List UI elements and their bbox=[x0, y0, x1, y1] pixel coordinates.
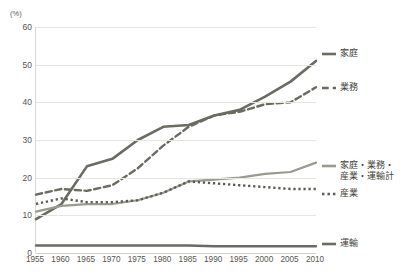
gridline bbox=[36, 102, 316, 103]
legend-swatch-icon bbox=[322, 163, 336, 173]
line-chart: (%) 0102030405060 1955196019651970197519… bbox=[0, 0, 420, 277]
legend-item[interactable]: 業務 bbox=[322, 82, 358, 95]
legend-label: 家庭 bbox=[340, 48, 358, 59]
legend-label: 家庭・業務・ 産業・運輸計 bbox=[340, 160, 394, 182]
y-tick-label: 20 bbox=[6, 174, 32, 183]
chart-legend: 家庭業務家庭・業務・ 産業・運輸計産業運輸 bbox=[322, 0, 420, 277]
gridline bbox=[36, 140, 316, 141]
legend-label: 業務 bbox=[340, 82, 358, 93]
legend-swatch-icon bbox=[322, 85, 336, 95]
x-axis: 1955196019651970197519801985199019952000… bbox=[35, 256, 315, 274]
series-line bbox=[36, 181, 316, 204]
y-tick-label: 40 bbox=[6, 98, 32, 107]
legend-label: 運輸 bbox=[340, 238, 358, 249]
legend-label: 産業 bbox=[340, 188, 358, 199]
series-line bbox=[36, 245, 316, 246]
gridline bbox=[36, 178, 316, 179]
legend-item[interactable]: 家庭 bbox=[322, 48, 358, 61]
y-axis: 0102030405060 bbox=[0, 0, 32, 277]
legend-item[interactable]: 産業 bbox=[322, 188, 358, 201]
plot-area bbox=[35, 27, 315, 253]
y-tick-label: 60 bbox=[6, 23, 32, 32]
gridline bbox=[36, 27, 316, 28]
legend-swatch-icon bbox=[322, 241, 336, 251]
gridline bbox=[36, 253, 316, 254]
legend-swatch-icon bbox=[322, 51, 336, 61]
gridline bbox=[36, 215, 316, 216]
y-tick-label: 10 bbox=[6, 211, 32, 220]
y-tick-label: 50 bbox=[6, 61, 32, 70]
y-tick-label: 30 bbox=[6, 136, 32, 145]
gridline bbox=[36, 65, 316, 66]
legend-item[interactable]: 家庭・業務・ 産業・運輸計 bbox=[322, 160, 394, 182]
legend-swatch-icon bbox=[322, 191, 336, 201]
legend-item[interactable]: 運輸 bbox=[322, 238, 358, 251]
